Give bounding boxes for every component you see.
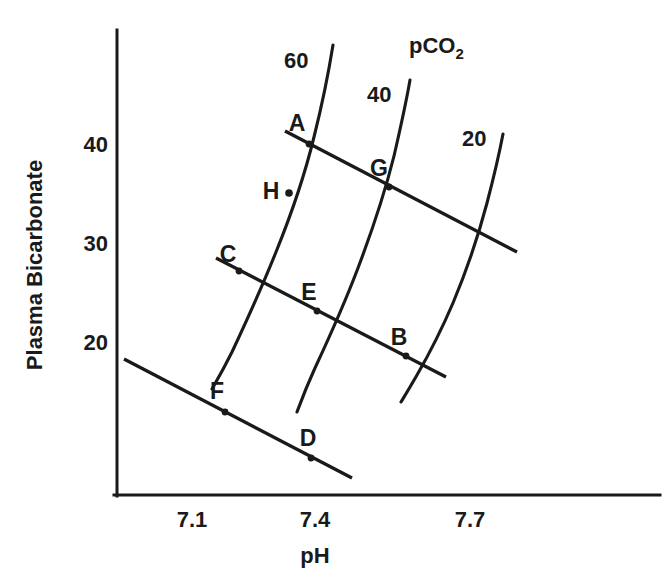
svg-text:pCO2: pCO2 bbox=[409, 33, 464, 62]
base-line-low bbox=[124, 359, 352, 478]
iso-curve-pco2-40 bbox=[297, 80, 410, 412]
chart-canvas: 40 30 20 7.1 7.4 7.7 pH Plasma Bicarbona… bbox=[0, 0, 666, 586]
data-point-label-B: B bbox=[391, 324, 408, 350]
iso-curve-pco2-60 bbox=[212, 45, 333, 389]
x-tick-labels: 7.1 7.4 7.7 bbox=[177, 507, 486, 532]
y-tick-label-30: 30 bbox=[84, 231, 108, 256]
x-tick-label-7-1: 7.1 bbox=[177, 507, 208, 532]
base-lines-group bbox=[124, 131, 517, 478]
data-point-B bbox=[403, 353, 410, 360]
x-tick-label-7-7: 7.7 bbox=[455, 507, 486, 532]
data-point-C bbox=[236, 268, 243, 275]
x-axis-title: pH bbox=[300, 543, 329, 568]
data-point-F bbox=[222, 409, 229, 416]
data-point-label-D: D bbox=[300, 425, 317, 451]
iso-curves-group bbox=[212, 45, 503, 412]
y-tick-label-40: 40 bbox=[84, 132, 108, 157]
data-point-E bbox=[314, 308, 321, 315]
iso-curve-label-60: 60 bbox=[284, 48, 308, 73]
y-tick-label-20: 20 bbox=[84, 330, 108, 355]
data-point-G bbox=[386, 184, 393, 191]
x-tick-label-7-4: 7.4 bbox=[300, 507, 331, 532]
data-point-D bbox=[308, 455, 315, 462]
data-point-label-H: H bbox=[263, 178, 280, 204]
y-tick-labels: 40 30 20 bbox=[84, 132, 108, 355]
data-point-A bbox=[306, 141, 313, 148]
legend-pco2: pCO2 bbox=[409, 33, 464, 62]
base-line-mid bbox=[216, 258, 446, 377]
iso-curve-label-20: 20 bbox=[462, 126, 486, 151]
data-point-label-E: E bbox=[301, 279, 316, 305]
y-axis-title: Plasma Bicarbonate bbox=[22, 160, 47, 370]
data-point-label-F: F bbox=[210, 378, 224, 404]
data-point-H bbox=[285, 189, 293, 197]
iso-curve-label-40: 40 bbox=[367, 82, 391, 107]
acid-base-nomogram-figure: 40 30 20 7.1 7.4 7.7 pH Plasma Bicarbona… bbox=[0, 0, 666, 586]
data-point-label-G: G bbox=[370, 155, 388, 181]
data-point-label-A: A bbox=[289, 110, 306, 136]
legend-title-text: pCO bbox=[409, 33, 455, 58]
legend-title-subscript: 2 bbox=[455, 45, 463, 62]
data-point-label-C: C bbox=[220, 241, 237, 267]
